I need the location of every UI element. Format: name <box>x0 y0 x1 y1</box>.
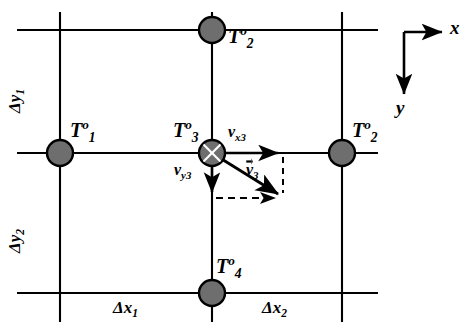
spacing-label-dy2: Δy2 <box>6 229 27 253</box>
node-label-left: To1 <box>70 118 96 144</box>
spacing-label-dx1: Δx1 <box>113 299 138 320</box>
node-label-right: To2 <box>352 118 378 144</box>
grid-lines <box>17 12 378 322</box>
grid-nodes <box>47 17 355 306</box>
spacing-label-dx2: Δx2 <box>262 299 287 320</box>
velocity-label-vy3: vy3 <box>174 162 191 181</box>
node-label-bottom: To4 <box>216 254 242 280</box>
node-label-top: To2 <box>228 24 254 50</box>
grid-stencil-diagram: To2 To1 To3 To2 To4 vx3 vy3 v3 Δx1 Δx2 Δ… <box>0 0 476 331</box>
axis-label-y: y <box>396 98 404 117</box>
coordinate-axes <box>404 32 442 94</box>
node-label-center: To3 <box>173 118 199 144</box>
node-bottom <box>199 280 225 306</box>
axis-label-x: x <box>450 18 460 37</box>
node-top <box>199 17 225 43</box>
spacing-label-dy1: Δy1 <box>6 89 27 113</box>
node-center <box>199 140 225 166</box>
velocity-label-v3: v3 <box>246 162 259 181</box>
velocity-label-vx3: vx3 <box>228 124 246 143</box>
